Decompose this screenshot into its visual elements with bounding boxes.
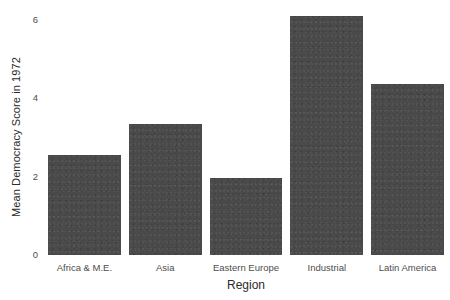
y-tick-label: 4 (22, 93, 38, 103)
x-tick-label: Industrial (286, 262, 367, 274)
bar (129, 124, 202, 255)
bar-chart: Mean Democracy Score in 1972 0246 Africa… (0, 0, 450, 300)
x-axis-tick-labels: Africa & M.E.AsiaEastern EuropeIndustria… (44, 262, 448, 276)
y-tick-label: 0 (22, 250, 38, 260)
y-tick-label: 6 (22, 15, 38, 25)
bar (48, 155, 121, 255)
bar (290, 16, 363, 255)
bar (371, 84, 444, 255)
plot-area (44, 10, 448, 255)
x-tick-label: Eastern Europe (206, 262, 287, 274)
x-tick-label: Asia (125, 262, 206, 274)
x-tick-label: Africa & M.E. (44, 262, 125, 274)
y-axis-tick-labels: 0246 (22, 0, 38, 300)
x-axis-title: Region (44, 278, 448, 292)
x-tick-label: Latin America (367, 262, 448, 274)
bars-layer (44, 10, 448, 255)
y-tick-label: 2 (22, 172, 38, 182)
bar (210, 178, 283, 255)
